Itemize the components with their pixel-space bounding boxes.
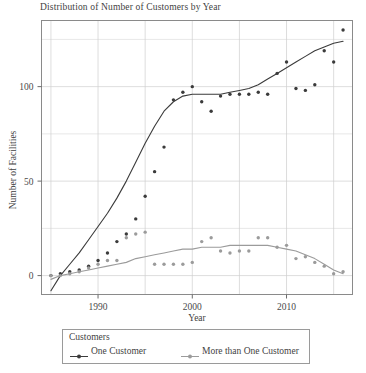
svg-text:50: 50 xyxy=(24,177,34,187)
x-axis-title: Year xyxy=(188,313,206,323)
svg-text:1990: 1990 xyxy=(89,302,108,312)
plot-area: 050100 199020002010 Number of Facilities… xyxy=(0,0,366,373)
legend-entry-more-than-one-customer[interactable]: More than One Customer xyxy=(181,346,299,356)
data-series xyxy=(49,28,345,290)
legend-label: More than One Customer xyxy=(202,346,299,356)
legend-marker-icon xyxy=(70,347,88,356)
x-tick-labels: 199020002010 xyxy=(89,302,297,312)
y-tick-labels: 050100 xyxy=(19,82,34,281)
legend-marker-icon xyxy=(181,347,199,356)
gridlines xyxy=(42,21,353,295)
legend-entry-one-customer[interactable]: One Customer xyxy=(70,346,146,356)
legend-label: One Customer xyxy=(91,346,146,356)
axis-ticks xyxy=(38,87,287,299)
legend-title: Customers xyxy=(69,332,110,342)
svg-text:2010: 2010 xyxy=(277,302,296,312)
plot-frame xyxy=(42,21,353,295)
svg-text:100: 100 xyxy=(19,82,34,92)
y-axis-title: Number of Facilities xyxy=(8,130,18,209)
svg-text:0: 0 xyxy=(29,271,34,281)
legend: Customers One Customer More than One Cus… xyxy=(62,329,310,364)
svg-text:2000: 2000 xyxy=(183,302,202,312)
chart-container: Distribution of Number of Customers by Y… xyxy=(0,0,366,373)
